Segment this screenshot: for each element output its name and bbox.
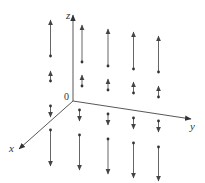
coordinate-axes xyxy=(19,15,191,149)
base-point-dot xyxy=(81,61,84,64)
base-point-dot xyxy=(107,89,110,92)
base-point-dot xyxy=(49,55,52,58)
vector-arrow xyxy=(49,71,52,82)
z-axis-label: z xyxy=(65,9,71,21)
vector-arrow xyxy=(107,113,110,125)
base-point-dot xyxy=(157,71,160,74)
vector-arrow xyxy=(78,109,81,121)
base-point-dot xyxy=(78,134,81,137)
vector-arrow xyxy=(78,134,81,170)
base-point-dot xyxy=(107,65,110,68)
vector-arrow xyxy=(107,29,110,67)
base-point-dot xyxy=(132,142,135,145)
vector-arrow xyxy=(107,138,110,174)
vector-arrow xyxy=(81,25,84,63)
base-point-dot xyxy=(49,129,52,132)
base-point-dot xyxy=(132,117,135,120)
base-point-dot xyxy=(107,138,110,141)
x-axis xyxy=(19,101,73,149)
vector-arrow xyxy=(157,36,160,73)
base-point-dot xyxy=(157,120,160,123)
vector-arrow xyxy=(49,129,52,166)
base-point-dot xyxy=(157,96,160,99)
vector-arrow xyxy=(132,142,135,178)
vector-arrow xyxy=(49,105,52,117)
base-point-dot xyxy=(107,113,110,116)
base-point-dot xyxy=(78,109,81,112)
vector-arrow xyxy=(107,79,110,91)
y-axis xyxy=(73,101,191,119)
vector-arrow xyxy=(49,20,52,57)
vector-arrow xyxy=(132,32,135,70)
x-axis-label: x xyxy=(8,142,14,154)
origin-label: 0 xyxy=(64,91,69,102)
base-point-dot xyxy=(157,146,160,149)
y-axis-label: y xyxy=(189,120,195,132)
vector-arrow xyxy=(157,86,160,98)
vector-arrow xyxy=(157,120,160,132)
vector-arrow xyxy=(81,75,84,87)
vector-arrow xyxy=(157,146,160,181)
base-point-dot xyxy=(132,92,135,95)
base-point-dot xyxy=(132,68,135,71)
vector-arrow xyxy=(132,82,135,94)
base-point-dot xyxy=(49,105,52,108)
vector-field-diagram: z y x 0 xyxy=(0,0,205,183)
base-point-dot xyxy=(49,80,52,83)
vector-arrow xyxy=(132,117,135,129)
base-point-dot xyxy=(81,85,84,88)
